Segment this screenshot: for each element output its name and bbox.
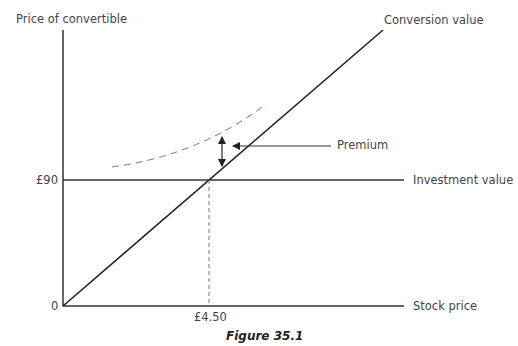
origin-label: 0	[51, 301, 58, 313]
x-axis-label: Stock price	[413, 301, 477, 313]
conversion-value-label: Conversion value	[384, 15, 484, 27]
investment-value-label: Investment value	[413, 175, 513, 187]
figure-caption: Figure 35.1	[226, 330, 303, 342]
x-tick-4-50: £4.50	[194, 312, 227, 324]
convertible-price-curve	[112, 104, 266, 167]
y-tick-90: £90	[36, 175, 58, 187]
premium-label: Premium	[337, 140, 388, 152]
conversion-value-line	[63, 30, 383, 306]
y-axis-label: Price of convertible	[16, 14, 127, 26]
